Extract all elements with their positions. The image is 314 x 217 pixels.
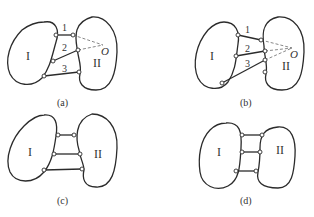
link-label-3: 3 <box>245 58 250 69</box>
panel-a: I II 1 2 3 O (a) <box>8 17 117 109</box>
body-label-I: I <box>210 49 214 63</box>
link-2 <box>236 51 265 56</box>
link-3 <box>44 169 82 170</box>
dashed-line-2 <box>78 45 103 50</box>
rigid-body-I <box>195 22 238 88</box>
joint <box>56 133 60 137</box>
caption-a: (a) <box>57 97 68 109</box>
joint <box>263 49 267 53</box>
joint <box>72 133 76 137</box>
joint <box>52 152 56 156</box>
link-3 <box>222 60 265 83</box>
link-label-1: 1 <box>245 24 250 35</box>
joint <box>259 38 263 42</box>
body-label-I: I <box>28 145 32 159</box>
joint <box>254 169 258 173</box>
joint <box>77 70 81 74</box>
joint <box>51 59 55 63</box>
link-label-2: 2 <box>62 42 67 53</box>
caption-b: (b) <box>240 97 252 109</box>
joint <box>78 152 82 156</box>
joint <box>76 48 80 52</box>
joint <box>234 54 238 58</box>
body-label-I: I <box>26 49 30 63</box>
link-label-3: 3 <box>62 63 67 74</box>
body-label-II: II <box>282 59 290 73</box>
instant-center-label: O <box>290 48 298 60</box>
rigid-body-I <box>8 115 57 181</box>
kinematic-linkage-figure: I II 1 2 3 O (a) I II 1 2 3 O (b) <box>0 0 314 217</box>
joint <box>240 133 244 137</box>
dashed-line-1 <box>73 35 103 45</box>
joint <box>220 81 224 85</box>
joint <box>234 169 238 173</box>
body-label-II: II <box>94 147 102 161</box>
joint <box>42 168 46 172</box>
instant-center-label: O <box>101 45 109 57</box>
link-1 <box>238 35 261 40</box>
caption-c: (c) <box>57 195 68 207</box>
body-label-II: II <box>276 143 284 157</box>
joint <box>80 167 84 171</box>
joint <box>71 33 75 37</box>
panel-b: I II 1 2 3 O (b) <box>195 17 304 109</box>
joint <box>260 133 264 137</box>
joint <box>54 33 58 37</box>
panel-d: I II (d) <box>199 123 295 207</box>
joint <box>263 58 267 62</box>
joint <box>263 70 267 74</box>
rigid-body-II <box>76 17 117 90</box>
joint <box>42 74 46 78</box>
joint <box>236 33 240 37</box>
joint <box>258 150 262 154</box>
body-label-II: II <box>93 56 101 70</box>
joint <box>240 150 244 154</box>
panel-c: I II (c) <box>8 114 117 207</box>
caption-d: (d) <box>240 195 252 207</box>
body-label-I: I <box>217 145 221 159</box>
link-label-1: 1 <box>62 22 67 33</box>
dashed-line-1 <box>261 40 292 48</box>
link-label-2: 2 <box>245 43 250 54</box>
